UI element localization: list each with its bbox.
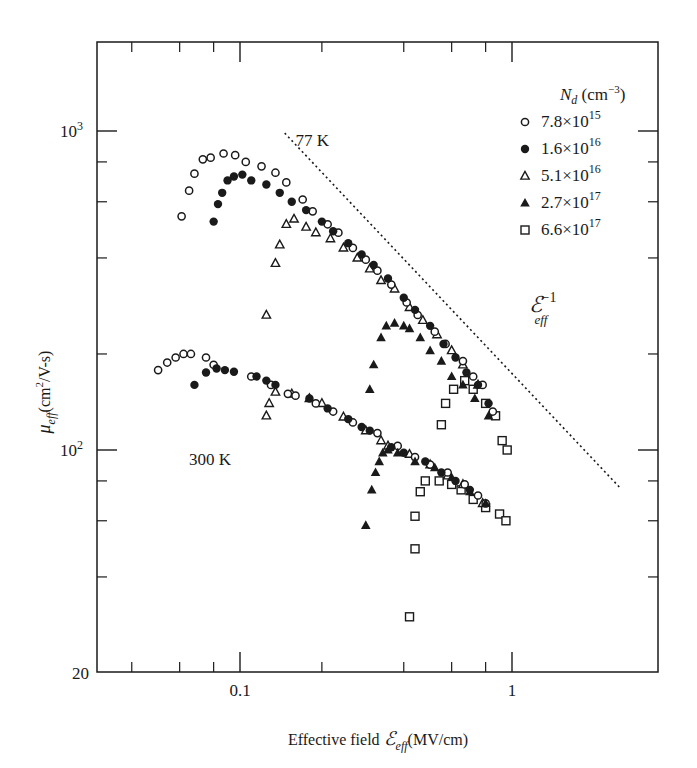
data-point bbox=[318, 217, 326, 225]
legend-label: 6.6×1017 bbox=[541, 216, 601, 239]
x-axis-label: Effective field ℰeff(MV/cm) bbox=[288, 728, 468, 753]
data-point bbox=[155, 367, 162, 374]
data-point bbox=[214, 200, 222, 208]
data-point bbox=[290, 214, 298, 222]
data-point bbox=[209, 217, 217, 225]
y-axis-label: μeff(cm2/V-s) bbox=[33, 351, 58, 435]
data-point bbox=[288, 198, 296, 206]
data-point bbox=[232, 152, 239, 159]
data-point bbox=[502, 517, 510, 525]
legend-label: 5.1×1016 bbox=[541, 162, 601, 185]
data-point bbox=[212, 364, 220, 372]
data-point bbox=[329, 227, 337, 235]
mobility-vs-field-chart: 0.1120102103 Nd (cm−3)7.8×10151.6×10165.… bbox=[0, 0, 697, 768]
data-point bbox=[462, 368, 470, 376]
data-point bbox=[450, 385, 458, 393]
filled-triangle-icon bbox=[520, 198, 530, 207]
data-point bbox=[447, 346, 455, 354]
legend-title: Nd (cm−3) bbox=[559, 83, 625, 107]
data-point bbox=[416, 488, 424, 496]
annotation: 300 K bbox=[189, 450, 232, 469]
data-point bbox=[371, 467, 381, 476]
data-point bbox=[191, 170, 198, 177]
data-point bbox=[374, 429, 381, 436]
data-point bbox=[172, 354, 179, 361]
data-point bbox=[357, 423, 365, 431]
data-point bbox=[247, 176, 255, 184]
data-point bbox=[180, 350, 187, 357]
legend-entry: 5.1×1016 bbox=[521, 162, 601, 185]
data-point bbox=[276, 240, 284, 248]
data-point bbox=[178, 213, 185, 220]
series-6.6e17-300k bbox=[406, 477, 510, 621]
data-point bbox=[366, 426, 374, 434]
data-point bbox=[376, 333, 386, 342]
data-point bbox=[262, 376, 270, 384]
data-points bbox=[155, 150, 512, 621]
data-point bbox=[387, 443, 395, 451]
data-point bbox=[164, 359, 171, 366]
data-point bbox=[439, 340, 447, 348]
data-point bbox=[323, 404, 331, 412]
data-point bbox=[437, 468, 445, 476]
open-circle-icon bbox=[521, 118, 528, 125]
legend-entry: 2.7×1017 bbox=[520, 189, 601, 212]
data-point bbox=[344, 239, 352, 247]
legend: Nd (cm−3)7.8×10151.6×10165.1×10162.7×101… bbox=[520, 83, 625, 239]
data-point bbox=[451, 353, 459, 361]
data-point bbox=[262, 180, 270, 188]
data-point bbox=[271, 381, 279, 389]
series-1.6e16-300k bbox=[190, 364, 474, 494]
legend-label: 1.6×1016 bbox=[541, 135, 601, 158]
data-point bbox=[282, 220, 290, 228]
data-point bbox=[365, 384, 375, 393]
data-point bbox=[411, 512, 419, 520]
data-point bbox=[470, 393, 480, 402]
legend-label: 2.7×1017 bbox=[541, 189, 601, 212]
data-point bbox=[276, 189, 284, 197]
reference-line-e-eff-inverse bbox=[285, 133, 621, 488]
data-point bbox=[361, 520, 371, 529]
data-point bbox=[357, 250, 365, 258]
data-point bbox=[442, 399, 450, 407]
data-point bbox=[292, 392, 299, 399]
x-tick-label: 1 bbox=[508, 681, 517, 700]
filled-circle-icon bbox=[521, 145, 529, 153]
data-point bbox=[220, 150, 227, 157]
data-point bbox=[284, 390, 291, 397]
series-1.6e16-77k bbox=[209, 170, 492, 407]
data-point bbox=[390, 318, 400, 327]
data-point bbox=[498, 437, 506, 445]
data-point bbox=[272, 169, 279, 176]
data-point bbox=[302, 206, 310, 214]
data-point bbox=[421, 457, 429, 465]
data-point bbox=[474, 492, 481, 499]
data-point bbox=[199, 156, 206, 163]
open-square-icon bbox=[521, 226, 529, 234]
data-point bbox=[374, 456, 384, 465]
data-point bbox=[252, 372, 260, 380]
data-point bbox=[459, 357, 466, 364]
data-point bbox=[406, 613, 414, 621]
annotation: 77 K bbox=[296, 131, 330, 150]
data-point bbox=[369, 360, 379, 369]
data-point bbox=[262, 310, 270, 318]
data-point bbox=[218, 189, 226, 197]
data-point bbox=[447, 371, 457, 380]
data-point bbox=[299, 196, 306, 203]
data-point bbox=[265, 399, 273, 407]
data-point bbox=[186, 187, 193, 194]
data-point bbox=[451, 477, 459, 485]
data-point bbox=[258, 163, 265, 170]
data-point bbox=[367, 485, 377, 494]
data-point bbox=[381, 321, 391, 330]
data-point bbox=[202, 354, 209, 361]
data-point bbox=[344, 415, 352, 423]
data-point bbox=[400, 449, 408, 457]
series-5.1e16-77k bbox=[262, 214, 482, 388]
data-point bbox=[202, 368, 210, 376]
legend-label: 7.8×1015 bbox=[541, 108, 601, 131]
data-point bbox=[503, 446, 511, 454]
data-point bbox=[411, 545, 419, 553]
x-tick-label: 0.1 bbox=[229, 681, 250, 700]
